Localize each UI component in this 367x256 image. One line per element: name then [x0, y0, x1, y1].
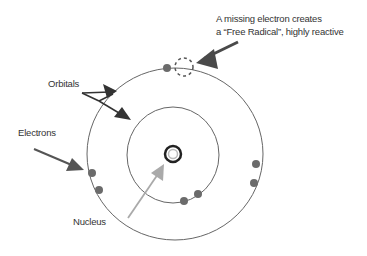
orbitals-arrow-icon — [82, 84, 131, 120]
atom-diagram: A missing electron creates a “Free Radic… — [0, 0, 367, 256]
electron-icon — [163, 64, 171, 72]
electron-icon — [95, 186, 103, 194]
free-radical-arrow-icon — [196, 42, 238, 69]
electron-icon — [180, 197, 188, 205]
nucleus-icon — [165, 146, 181, 162]
nucleus-label: Nucleus — [73, 216, 106, 227]
missing-electron-icon — [175, 58, 193, 76]
electron-icon — [88, 169, 96, 177]
electrons-arrow-icon — [34, 149, 84, 171]
free-radical-label-line2: a “Free Radical”, highly reactive — [216, 26, 344, 37]
free-radical-label-line1: A missing electron creates — [216, 13, 322, 24]
orbitals-label: Orbitals — [48, 78, 79, 89]
electron-icon — [194, 190, 202, 198]
electrons-outer — [88, 64, 260, 194]
electrons-inner — [180, 190, 202, 205]
electron-icon — [252, 160, 260, 168]
nucleus-arrow-icon — [128, 164, 164, 218]
electron-icon — [250, 179, 258, 187]
electrons-label: Electrons — [18, 127, 56, 138]
